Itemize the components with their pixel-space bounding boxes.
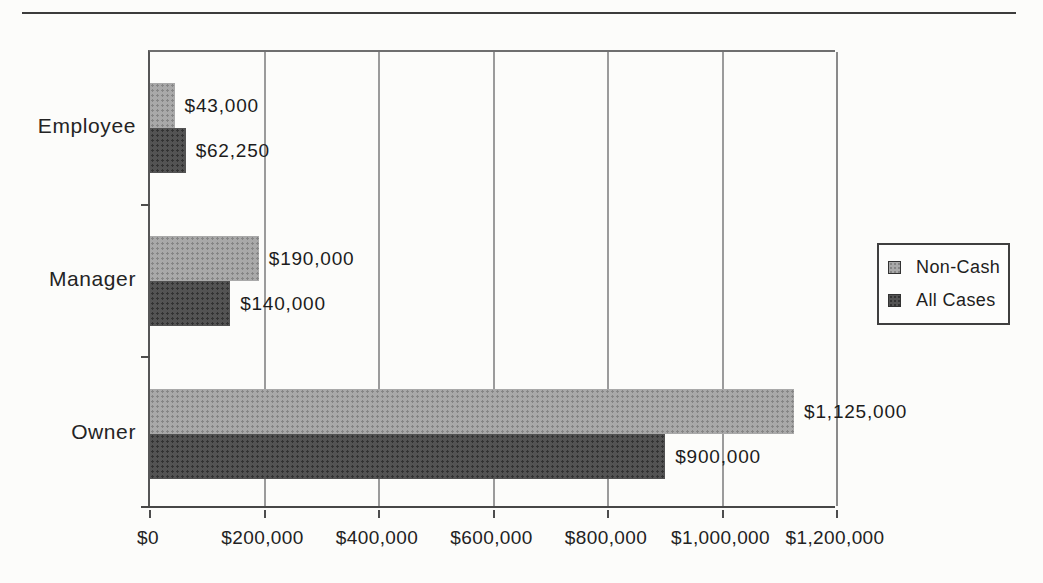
y-axis-tick-2 [141, 356, 150, 358]
legend-item-all-cases: All Cases [888, 290, 1008, 311]
legend-label-all-cases: All Cases [916, 290, 996, 311]
category-label-employee: Employee [0, 113, 136, 139]
bar-owner-non-cash [150, 389, 794, 434]
data-label-owner-all-cases: $900,000 [675, 445, 761, 468]
x-tick-label--400-000: $400,000 [336, 527, 418, 549]
x-axis-left-extension [141, 506, 150, 508]
bar-employee-non-cash [150, 83, 175, 128]
legend: Non-CashAll Cases [877, 243, 1010, 325]
data-label-employee-non-cash: $43,000 [185, 94, 259, 117]
data-label-manager-all-cases: $140,000 [240, 292, 326, 315]
data-label-manager-non-cash: $190,000 [269, 247, 355, 270]
x-tick-label--200-000: $200,000 [221, 527, 303, 549]
legend-swatch-non-cash-icon [888, 261, 901, 274]
data-label-employee-all-cases: $62,250 [196, 139, 270, 162]
data-label-owner-non-cash: $1,125,000 [804, 400, 907, 423]
x-axis-tick--400-000 [378, 510, 380, 518]
category-label-manager: Manager [0, 266, 136, 292]
legend-item-non-cash: Non-Cash [888, 257, 1008, 278]
x-tick-label--600-000: $600,000 [450, 527, 532, 549]
x-tick-label--1-200-000: $1,200,000 [785, 527, 884, 549]
bar-employee-all-cases [150, 128, 186, 173]
x-axis-tick--800-000 [607, 510, 609, 518]
legend-swatch-all-cases-icon [888, 294, 901, 307]
x-axis-tick--600-000 [493, 510, 495, 518]
plot-area: $43,000$62,250$190,000$140,000$1,125,000… [148, 50, 835, 508]
x-tick-label--0: $0 [137, 527, 159, 549]
bar-manager-non-cash [150, 236, 259, 281]
bar-owner-all-cases [150, 434, 665, 479]
x-axis-tick--1-000-000 [722, 510, 724, 518]
gridline--1-200-000 [836, 52, 838, 506]
x-tick-label--800-000: $800,000 [565, 527, 647, 549]
page-top-rule-divider [22, 12, 1016, 14]
legend-label-non-cash: Non-Cash [916, 257, 1000, 278]
category-label-owner: Owner [0, 419, 136, 445]
y-axis-tick-1 [141, 204, 150, 206]
x-tick-label--1-000-000: $1,000,000 [671, 527, 770, 549]
scanned-page: $43,000$62,250$190,000$140,000$1,125,000… [0, 0, 1043, 583]
bar-manager-all-cases [150, 281, 230, 326]
gridline--1-000-000 [722, 52, 724, 506]
x-axis-tick--200-000 [264, 510, 266, 518]
x-axis-tick--0 [149, 510, 151, 518]
x-axis-tick--1-200-000 [836, 510, 838, 518]
